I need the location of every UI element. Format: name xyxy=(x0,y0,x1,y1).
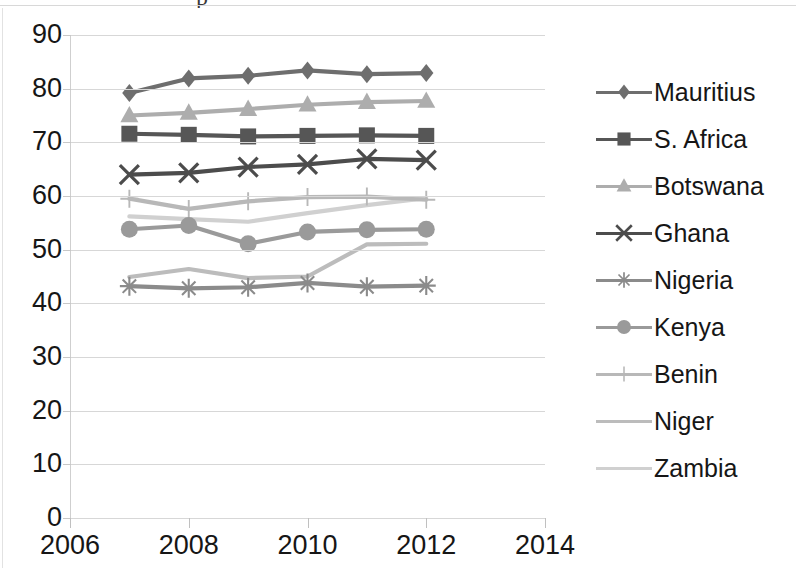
gridline-y xyxy=(70,89,545,90)
data-point-diamond xyxy=(360,65,374,83)
x-axis-tick-label: 2010 xyxy=(253,530,363,560)
y-axis-tick xyxy=(63,35,71,36)
y-axis-tick-label: 40 xyxy=(2,289,62,316)
legend-label: Benin xyxy=(652,360,718,388)
x-axis-tick xyxy=(308,518,309,528)
legend-marker-icon xyxy=(596,360,652,388)
x-axis-tick-label: 2006 xyxy=(15,530,125,560)
y-axis-tick xyxy=(63,250,71,251)
data-point-diamond xyxy=(419,64,433,82)
y-axis-tick-label: 50 xyxy=(2,236,62,263)
legend-item-botswana[interactable]: Botswana xyxy=(596,166,764,206)
legend-item-niger[interactable]: Niger xyxy=(596,401,714,441)
y-axis-tick-label: 70 xyxy=(2,128,62,155)
y-axis-tick-label: 20 xyxy=(2,397,62,424)
data-point-square xyxy=(181,127,197,143)
y-axis-tick xyxy=(63,303,71,304)
legend-key-diamond-icon xyxy=(596,78,652,106)
data-point-diamond xyxy=(241,67,255,85)
data-point-asterisk xyxy=(417,276,436,295)
y-axis-tick-label: 90 xyxy=(2,21,62,48)
series-zambia xyxy=(129,198,426,222)
y-axis-tick xyxy=(63,464,71,465)
data-point-diamond xyxy=(300,61,314,79)
gridline-y xyxy=(70,303,545,304)
x-axis-tick xyxy=(545,518,546,528)
x-axis-tick-label: 2008 xyxy=(134,530,244,560)
data-point-square xyxy=(359,127,375,143)
legend-marker-icon xyxy=(596,219,652,247)
data-point-asterisk xyxy=(239,278,258,297)
x-axis-tick-label: 2012 xyxy=(371,530,481,560)
legend-item-s--africa[interactable]: S. Africa xyxy=(596,119,747,159)
data-point-diamond xyxy=(122,84,136,102)
series-ghana xyxy=(120,149,436,184)
gridline-y xyxy=(70,357,545,358)
legend-label: S. Africa xyxy=(652,125,747,153)
data-point-asterisk xyxy=(298,273,317,292)
legend-line-swatch xyxy=(596,420,652,423)
y-axis-tick xyxy=(63,411,71,412)
legend-key-square-icon xyxy=(596,125,652,153)
data-point-diamond xyxy=(618,85,630,100)
chart-legend: MauritiusS. AfricaBotswanaGhanaNigeriaKe… xyxy=(596,72,796,502)
data-point-plus xyxy=(120,190,138,208)
legend-label: Botswana xyxy=(652,172,764,200)
data-point-plus xyxy=(299,188,317,206)
legend-item-nigeria[interactable]: Nigeria xyxy=(596,260,733,300)
legend-label: Nigeria xyxy=(652,266,733,294)
data-point-triangle xyxy=(617,178,632,191)
legend-key-none-icon xyxy=(596,407,652,435)
legend-key-x-icon xyxy=(596,219,652,247)
data-point-square xyxy=(617,132,630,145)
y-axis-labels: 0102030405060708090 xyxy=(0,0,62,577)
legend-item-benin[interactable]: Benin xyxy=(596,354,718,394)
line-chart: p 0102030405060708090 200620082010201220… xyxy=(0,0,796,577)
data-point-square xyxy=(121,126,137,142)
legend-item-zambia[interactable]: Zambia xyxy=(596,448,737,488)
y-axis-tick xyxy=(63,196,71,197)
y-axis-tick-label: 0 xyxy=(2,504,62,531)
data-point-circle xyxy=(617,320,631,334)
data-point-asterisk xyxy=(357,277,376,296)
gridline-y xyxy=(70,464,545,465)
data-point-plus xyxy=(180,200,198,218)
y-axis-tick-label: 80 xyxy=(2,75,62,102)
legend-item-ghana[interactable]: Ghana xyxy=(596,213,729,253)
data-point-asterisk xyxy=(179,279,198,298)
data-point-circle xyxy=(358,221,375,238)
series-botswana xyxy=(120,92,435,123)
y-axis-tick xyxy=(63,89,71,90)
y-axis-tick xyxy=(63,357,71,358)
data-point-circle xyxy=(299,223,316,240)
x-axis-labels: 20062008201020122014 xyxy=(0,530,620,570)
legend-label: Zambia xyxy=(652,454,737,482)
legend-marker-icon xyxy=(596,313,652,341)
series-kenya xyxy=(121,217,435,252)
data-point-diamond xyxy=(182,69,196,87)
top-rule xyxy=(0,5,796,6)
legend-key-plus-icon xyxy=(596,360,652,388)
plot-area xyxy=(70,35,545,518)
gridline-y xyxy=(70,35,545,36)
y-axis-tick-label: 60 xyxy=(2,182,62,209)
x-axis-tick xyxy=(426,518,427,528)
legend-key-asterisk-icon xyxy=(596,266,652,294)
legend-item-mauritius[interactable]: Mauritius xyxy=(596,72,755,112)
gridline-y xyxy=(70,411,545,412)
legend-key-triangle-icon xyxy=(596,172,652,200)
legend-marker-icon xyxy=(596,266,652,294)
y-axis-tick-label: 10 xyxy=(2,450,62,477)
data-point-asterisk xyxy=(616,272,632,288)
data-point-x xyxy=(616,225,632,241)
data-point-circle xyxy=(121,221,138,238)
x-axis-tick xyxy=(70,518,71,528)
legend-label: Niger xyxy=(652,407,714,435)
y-axis-tick-label: 30 xyxy=(2,343,62,370)
legend-marker-icon xyxy=(596,78,652,106)
legend-marker-icon xyxy=(596,125,652,153)
data-point-circle xyxy=(180,217,197,234)
legend-item-kenya[interactable]: Kenya xyxy=(596,307,725,347)
legend-key-circle-icon xyxy=(596,313,652,341)
x-axis-tick xyxy=(189,518,190,528)
